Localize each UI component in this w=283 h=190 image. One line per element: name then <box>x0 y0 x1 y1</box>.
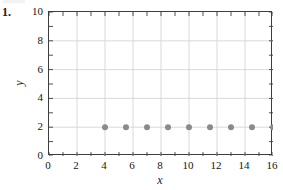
data-point <box>228 124 234 130</box>
y-tick-label: 8 <box>28 34 43 45</box>
grid-and-points <box>49 12 273 156</box>
data-point <box>165 124 171 130</box>
scatter-plot-figure: 1. 0246810121416 0246810 x y <box>0 0 283 190</box>
gridlines <box>49 12 273 156</box>
x-tick-label: 12 <box>211 160 222 171</box>
problem-number: 1. <box>2 6 11 18</box>
data-point <box>249 124 255 130</box>
data-point <box>270 124 273 130</box>
x-tick-label: 4 <box>101 160 107 171</box>
x-tick-label: 6 <box>129 160 135 171</box>
data-point <box>102 124 108 130</box>
x-tick-label: 2 <box>73 160 79 171</box>
y-tick-label: 0 <box>28 150 43 161</box>
x-axis-title: x <box>157 174 162 186</box>
y-tick-label: 10 <box>28 6 43 17</box>
data-point <box>144 124 150 130</box>
y-axis-title: y <box>13 80 25 85</box>
data-point <box>123 124 129 130</box>
plot-area <box>48 11 272 155</box>
x-tick-label: 14 <box>239 160 250 171</box>
x-tick-label: 0 <box>45 160 51 171</box>
scan-artifact <box>3 0 25 3</box>
y-tick-label: 6 <box>28 63 43 74</box>
y-tick-label: 2 <box>28 121 43 132</box>
y-tick-label: 4 <box>28 92 43 103</box>
data-point <box>207 124 213 130</box>
x-tick-label: 16 <box>267 160 278 171</box>
x-tick-label: 8 <box>157 160 163 171</box>
data-point <box>186 124 192 130</box>
x-tick-label: 10 <box>183 160 194 171</box>
